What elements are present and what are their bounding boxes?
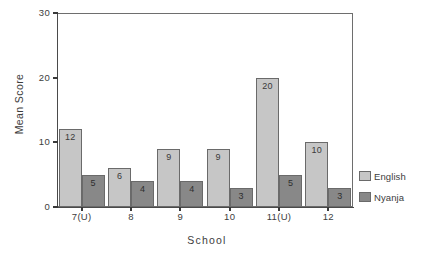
legend-item-nyanja: Nyanja [359, 191, 406, 203]
bar-english-10: 9 [207, 149, 230, 207]
bar-nyanja-9: 4 [180, 181, 203, 207]
bar-value-label: 10 [306, 145, 327, 155]
bar-english-11(U): 20 [256, 78, 279, 207]
bar-value-label: 5 [280, 178, 301, 188]
y-tick-mark [53, 141, 58, 143]
legend-swatch-icon [359, 171, 371, 181]
legend-label: Nyanja [374, 192, 404, 203]
y-tick-mark [53, 12, 58, 14]
y-tick-label: 0 [22, 201, 50, 212]
bar-value-label: 20 [257, 81, 278, 91]
y-tick-label: 10 [22, 136, 50, 147]
bar-value-label: 4 [132, 184, 153, 194]
legend-item-english: English [359, 170, 406, 182]
bar-value-label: 3 [231, 191, 252, 201]
bar-nyanja-10: 3 [230, 188, 253, 207]
bar-nyanja-8: 4 [131, 181, 154, 207]
bar-value-label: 3 [329, 191, 350, 201]
bar-value-label: 12 [60, 132, 81, 142]
bar-english-8: 6 [108, 168, 131, 207]
bar-chart: Mean Score 0102030 125649493205103 7(U)8… [0, 0, 422, 265]
bar-nyanja-11(U): 5 [279, 175, 302, 207]
legend-swatch-icon [359, 192, 371, 202]
bar-english-9: 9 [157, 149, 180, 207]
y-tick-mark [53, 206, 58, 208]
bar-value-label: 9 [208, 152, 229, 162]
bar-value-label: 9 [158, 152, 179, 162]
chart-legend: EnglishNyanja [359, 170, 406, 212]
y-tick-mark [53, 77, 58, 79]
bar-nyanja-12: 3 [328, 188, 351, 207]
x-axis-title: School [60, 234, 354, 246]
bar-value-label: 5 [83, 178, 104, 188]
y-tick-label: 30 [22, 7, 50, 18]
bar-english-7(U): 12 [59, 129, 82, 207]
bar-nyanja-7(U): 5 [82, 175, 105, 207]
x-axis-line [57, 207, 354, 208]
y-tick-label: 20 [22, 72, 50, 83]
bar-value-label: 4 [181, 184, 202, 194]
bar-english-12: 10 [305, 142, 328, 207]
legend-label: English [374, 171, 406, 182]
x-tick-label: 12 [298, 211, 358, 222]
bar-value-label: 6 [109, 171, 130, 181]
